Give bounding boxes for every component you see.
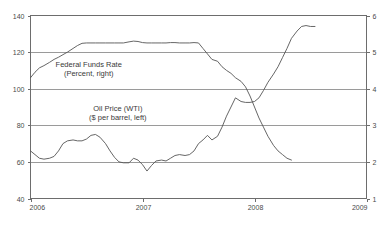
left-tick-label: 120	[13, 49, 25, 56]
right-tick-label: 1	[373, 196, 377, 203]
series-line-oil-price-wti	[31, 26, 315, 171]
ffr-annotation-line2: (Percent, right)	[64, 69, 114, 78]
x-tick-label: 2006	[30, 204, 46, 211]
right-tick-label: 4	[373, 86, 377, 93]
oil-annotation-line1: Oil Price (WTI)	[93, 104, 143, 113]
left-tick-label: 100	[13, 86, 25, 93]
left-tick-label: 40	[17, 196, 25, 203]
x-tick-label: 2008	[248, 204, 264, 211]
right-tick-label: 3	[373, 122, 377, 129]
left-tick-label: 140	[13, 13, 25, 20]
oil-annotation-line2: ($ per barrel, left)	[89, 113, 147, 122]
x-tick-label: 2007	[136, 204, 152, 211]
right-axis-tick-labels: 123456	[373, 13, 377, 203]
right-tick-label: 6	[373, 13, 377, 20]
right-tick-label: 2	[373, 159, 377, 166]
economic-line-chart: 406080100120140 123456 2006200720082009 …	[0, 0, 391, 227]
chart-container: 406080100120140 123456 2006200720082009 …	[0, 0, 391, 227]
left-tick-label: 80	[17, 122, 25, 129]
x-tick-label: 2009	[352, 204, 368, 211]
left-axis-tick-labels: 406080100120140	[13, 13, 25, 203]
data-series-group	[31, 26, 315, 171]
series-annotations: Federal Funds Rate(Percent, right)Oil Pr…	[56, 60, 148, 122]
left-tick-label: 60	[17, 159, 25, 166]
right-tick-label: 5	[373, 49, 377, 56]
ffr-annotation-line1: Federal Funds Rate	[56, 60, 122, 69]
x-axis-tick-labels: 2006200720082009	[30, 204, 368, 211]
